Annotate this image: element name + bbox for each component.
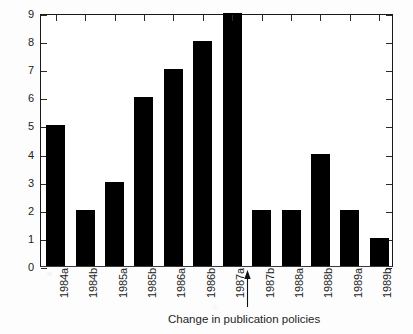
- y-axis-tick-right: [386, 99, 392, 100]
- chart-caption: Change in publication policies: [168, 313, 320, 325]
- bar-1984a: [46, 125, 65, 266]
- bar-1989b: [370, 238, 389, 266]
- bar-1988a: [282, 210, 301, 266]
- plot-area: [40, 14, 393, 267]
- y-axis-tick-right: [386, 43, 392, 44]
- y-axis-tick-right: [386, 156, 392, 157]
- x-axis-tick-label-1988b: 1988b: [323, 268, 334, 298]
- y-axis-tick: [41, 43, 47, 44]
- x-axis-tick-top: [291, 15, 292, 21]
- y-axis-tick-label: 5: [8, 121, 34, 132]
- y-axis-tick-right: [386, 71, 392, 72]
- x-axis-tick-top: [379, 15, 380, 21]
- y-axis-tick-label: 8: [8, 37, 34, 48]
- y-axis-tick-label: 2: [8, 205, 34, 216]
- x-axis-tick-top: [173, 15, 174, 21]
- bar-1987b: [252, 210, 271, 266]
- bar-1986b: [193, 41, 212, 266]
- y-axis-label-group: 0123456789: [6, 14, 34, 267]
- y-axis-tick-label: 9: [8, 9, 34, 20]
- x-axis-tick-label-1984a: 1984a: [59, 268, 70, 298]
- x-axis-tick-top: [85, 15, 86, 21]
- y-axis-tick: [41, 71, 47, 72]
- y-axis-tick-label: 0: [8, 262, 34, 273]
- x-axis-tick-label-1986b: 1986b: [206, 268, 217, 298]
- x-axis-tick-top: [203, 15, 204, 21]
- up-arrow-icon: [243, 270, 252, 307]
- x-axis-tick-label-1985b: 1985b: [147, 268, 158, 298]
- x-axis-label-group: 1984a1984b1985a1985b1986a1986b1987a1987b…: [40, 268, 393, 312]
- x-axis-tick-top: [56, 15, 57, 21]
- bar-1987a: [223, 13, 242, 266]
- x-axis-tick-top: [144, 15, 145, 21]
- y-axis-tick-label: 6: [8, 93, 34, 104]
- y-axis-tick-right: [386, 127, 392, 128]
- y-axis-tick-label: 7: [8, 65, 34, 76]
- y-axis-tick: [41, 99, 47, 100]
- x-axis-tick-label-1985a: 1985a: [118, 268, 129, 298]
- y-axis-tick-right: [386, 184, 392, 185]
- y-axis-tick-label: 1: [8, 233, 34, 244]
- x-axis-tick-label-1988a: 1988a: [294, 268, 305, 298]
- x-axis-tick-top: [320, 15, 321, 21]
- bar-1984b: [76, 210, 95, 266]
- bar-1986a: [164, 69, 183, 266]
- x-axis-tick-label-1989b: 1989b: [382, 268, 393, 298]
- bar-1989a: [340, 210, 359, 266]
- x-axis-tick-top: [350, 15, 351, 21]
- x-axis-tick-label-1987b: 1987b: [265, 268, 276, 298]
- x-axis-tick-label-1984b: 1984b: [88, 268, 99, 298]
- y-axis-tick-label: 4: [8, 149, 34, 160]
- x-axis-tick-top: [232, 15, 233, 21]
- bar-1988b: [311, 154, 330, 266]
- bar-1985a: [105, 182, 124, 266]
- x-axis-tick-label-1989a: 1989a: [353, 268, 364, 298]
- y-axis-tick-right: [386, 15, 392, 16]
- y-axis-tick-label: 3: [8, 177, 34, 188]
- x-axis-tick-top: [262, 15, 263, 21]
- y-axis-tick: [41, 15, 47, 16]
- bar-1985b: [134, 97, 153, 266]
- x-axis-tick-top: [115, 15, 116, 21]
- y-axis-tick-right: [386, 212, 392, 213]
- chart-page: 0123456789 1984a1984b1985a1985b1986a1986…: [0, 0, 413, 334]
- x-axis-tick-label-1986a: 1986a: [176, 268, 187, 298]
